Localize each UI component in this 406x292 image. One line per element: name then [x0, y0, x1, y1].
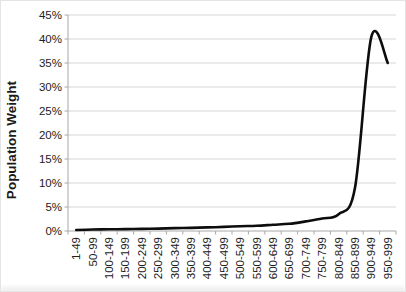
chart-canvas: 0%5%10%15%20%25%30%35%40%45% 1-4950-9910… — [1, 1, 406, 292]
x-axis-tick-label: 50-99 — [87, 237, 99, 266]
x-axis-tick-label: 650-699 — [283, 237, 295, 279]
x-axis-tick-label: 700-749 — [300, 237, 312, 279]
y-axis-tick-label: 30% — [39, 81, 62, 93]
y-axis-tick-label: 40% — [39, 33, 62, 45]
x-axis-tick-label: 750-799 — [316, 237, 328, 279]
x-axis-tick-label: 150-199 — [119, 237, 131, 279]
y-axis-tick-label: 20% — [39, 129, 62, 141]
axes — [68, 15, 396, 231]
x-axis-tick-label: 850-899 — [349, 237, 361, 279]
x-axis-tick-label: 200-249 — [136, 237, 148, 279]
x-axis-ticks: 1-4950-99100-149150-199200-249250-299300… — [68, 231, 396, 279]
y-axis-ticks: 0%5%10%15%20%25%30%35%40%45% — [39, 9, 68, 237]
x-axis-tick-label: 600-649 — [267, 237, 279, 279]
y-axis-tick-label: 15% — [39, 153, 62, 165]
y-axis-tick-label: 10% — [39, 177, 62, 189]
y-axis-title: Population Weight — [4, 80, 19, 199]
y-axis-tick-label: 45% — [39, 9, 62, 21]
x-axis-tick-label: 350-399 — [185, 237, 197, 279]
x-axis-tick-label: 900-949 — [365, 237, 377, 279]
y-axis-tick-label: 5% — [45, 201, 62, 213]
x-axis-tick-label: 1-49 — [70, 237, 82, 260]
x-axis-tick-label: 450-499 — [218, 237, 230, 279]
y-axis-tick-label: 25% — [39, 105, 62, 117]
x-axis-tick-label: 300-349 — [169, 237, 181, 279]
x-axis-tick-label: 100-149 — [103, 237, 115, 279]
population-weight-chart: 0%5%10%15%20%25%30%35%40%45% 1-4950-9910… — [0, 0, 406, 292]
x-axis-tick-label: 950-999 — [382, 237, 394, 279]
x-axis-tick-label: 250-299 — [152, 237, 164, 279]
y-axis-tick-label: 35% — [39, 57, 62, 69]
x-axis-tick-label: 800-849 — [333, 237, 345, 279]
x-axis-tick-label: 400-449 — [201, 237, 213, 279]
y-axis-tick-label: 0% — [45, 225, 62, 237]
x-axis-tick-label: 550-599 — [251, 237, 263, 279]
data-series-line — [76, 31, 388, 230]
x-axis-tick-label: 500-549 — [234, 237, 246, 279]
gridlines — [68, 15, 396, 207]
